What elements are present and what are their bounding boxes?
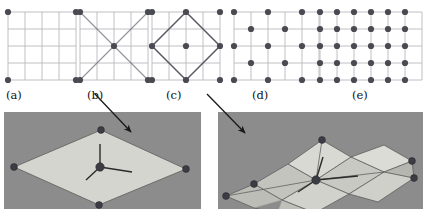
control-point-dot — [217, 43, 223, 49]
mesh-vertex-handle[interactable] — [251, 181, 258, 188]
control-point-dot — [149, 43, 155, 49]
control-point-dot — [402, 77, 408, 83]
panel-label-c: (c) — [166, 90, 181, 102]
control-point-dot — [351, 77, 357, 83]
control-point-dot — [402, 60, 408, 66]
control-point-dot — [351, 43, 357, 49]
mesh-vertex-handle[interactable] — [411, 175, 418, 182]
control-point-dot — [351, 26, 357, 32]
control-point-dot — [368, 43, 374, 49]
control-point-dot — [368, 60, 374, 66]
control-point-dot — [183, 43, 189, 49]
flat-quad-mesh-svg — [4, 112, 201, 209]
mesh-vertex-handle[interactable] — [11, 164, 18, 171]
control-point-dot — [299, 43, 305, 49]
control-point-dot — [217, 77, 223, 83]
control-point-dot — [299, 9, 305, 15]
control-point-dot — [183, 9, 189, 15]
control-point-dot — [149, 9, 155, 15]
mesh-vertex-handle[interactable] — [409, 158, 416, 165]
mesh-vertex-handle[interactable] — [223, 193, 230, 200]
control-point-dot — [317, 60, 323, 66]
control-point-dot — [351, 9, 357, 15]
mesh-vertex-handle[interactable] — [96, 202, 103, 209]
control-point-dot — [334, 26, 340, 32]
control-point-dot — [385, 26, 391, 32]
mesh-vertex-handle[interactable] — [183, 166, 190, 173]
control-point-dot — [317, 9, 323, 15]
panel-label-d: (d) — [252, 90, 268, 102]
mesh-vertex-handle[interactable] — [319, 137, 326, 144]
panel-label-b: (b) — [87, 90, 103, 102]
control-point-dot — [317, 43, 323, 49]
control-point-dot — [385, 60, 391, 66]
subdivision-stages-row: (a) (b) (c) (d) (e) — [0, 0, 427, 105]
control-point-dot — [402, 26, 408, 32]
control-point-dot — [5, 77, 11, 83]
control-point-dot — [149, 77, 155, 83]
control-point-dot — [248, 60, 254, 66]
control-point-dot — [351, 60, 357, 66]
mesh-vertex-handle[interactable] — [96, 163, 104, 171]
control-point-dot — [231, 9, 237, 15]
flat-quad-mesh-render-panel — [4, 112, 201, 209]
panel-label-e: (e) — [352, 90, 368, 102]
subdivided-mesh-svg — [218, 112, 423, 209]
control-point-dot — [183, 77, 189, 83]
control-point-dot — [334, 43, 340, 49]
control-point-dot — [334, 77, 340, 83]
control-point-dot — [385, 9, 391, 15]
control-point-dot — [385, 43, 391, 49]
panel-label-a: (a) — [6, 90, 22, 102]
control-point-dot — [368, 26, 374, 32]
control-point-dot — [402, 43, 408, 49]
control-point-dot — [231, 77, 237, 83]
control-point-dot — [111, 43, 117, 49]
control-point-dot — [368, 77, 374, 83]
control-point-dot — [5, 9, 11, 15]
control-point-dot — [334, 9, 340, 15]
control-point-dot — [385, 77, 391, 83]
grid-lines-group — [8, 12, 422, 80]
subdivided-mesh-render-panel — [218, 112, 423, 209]
control-point-dot — [402, 9, 408, 15]
mesh-vertex-handle[interactable] — [312, 176, 320, 184]
control-point-dot — [282, 60, 288, 66]
control-point-dot — [265, 9, 271, 15]
control-point-dot — [282, 26, 288, 32]
control-point-dot — [217, 9, 223, 15]
control-point-dot — [248, 26, 254, 32]
subdivision-figure: (a) (b) (c) (d) (e) — [0, 0, 427, 213]
control-point-dot — [231, 43, 237, 49]
control-point-dot — [368, 9, 374, 15]
control-point-dot — [77, 9, 83, 15]
control-point-dot — [317, 26, 323, 32]
control-point-dot — [317, 77, 323, 83]
mesh-vertex-handle[interactable] — [98, 127, 105, 134]
control-point-dot — [265, 43, 271, 49]
control-point-dot — [299, 77, 305, 83]
control-point-dot — [265, 77, 271, 83]
control-point-dot — [77, 77, 83, 83]
control-point-dot — [334, 60, 340, 66]
